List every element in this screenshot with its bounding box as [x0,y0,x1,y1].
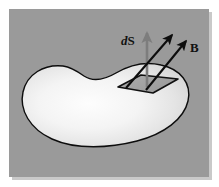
figure-container: dS B [0,0,219,187]
label-ds-symbol: S [128,33,135,48]
magnetic-flux-diagram: dS B [0,0,219,187]
label-ds: dS [121,33,135,48]
label-b: B [190,40,199,55]
